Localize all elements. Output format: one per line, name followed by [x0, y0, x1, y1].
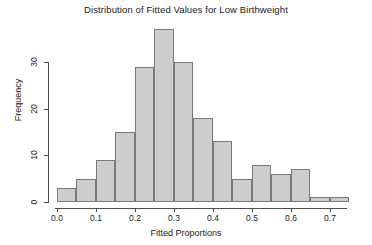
x-axis-line [55, 208, 347, 209]
y-axis-tick-label: 0 [29, 194, 39, 210]
y-axis-tick [44, 62, 48, 63]
histogram-bar [115, 132, 134, 202]
histogram-chart: Distribution of Fitted Values for Low Bi… [0, 0, 372, 245]
histogram-bar [232, 179, 251, 202]
histogram-bar [271, 174, 290, 202]
x-axis-tick [174, 208, 175, 212]
histogram-bar [330, 197, 349, 202]
x-axis-tick [213, 208, 214, 212]
x-axis-tick-label: 0.1 [90, 213, 102, 223]
histogram-bar [76, 179, 95, 202]
y-axis-tick-label: 20 [29, 101, 39, 117]
x-axis-tick [57, 208, 58, 212]
x-axis-tick-label: 0.0 [51, 213, 63, 223]
chart-title: Distribution of Fitted Values for Low Bi… [0, 4, 372, 15]
x-axis-tick-label: 0.6 [285, 213, 297, 223]
x-axis-tick [96, 208, 97, 212]
x-axis-tick-label: 0.2 [129, 213, 141, 223]
x-axis-tick-label: 0.7 [324, 213, 336, 223]
histogram-bar [310, 197, 329, 202]
plot-area [57, 20, 345, 202]
histogram-bar [57, 188, 76, 202]
x-axis-label: Fitted Proportions [0, 228, 372, 238]
histogram-bar [193, 118, 212, 202]
y-axis-tick-label: 10 [29, 147, 39, 163]
x-axis-tick [252, 208, 253, 212]
histogram-bar [96, 160, 115, 202]
x-axis-tick-label: 0.5 [246, 213, 258, 223]
histogram-bar [154, 29, 173, 202]
x-axis-tick [330, 208, 331, 212]
histogram-bar [252, 165, 271, 202]
bar-series [57, 20, 345, 202]
x-axis-tick-label: 0.4 [207, 213, 219, 223]
x-axis-tick [291, 208, 292, 212]
histogram-bar [291, 169, 310, 202]
y-axis-line [48, 62, 49, 203]
histogram-bar [174, 62, 193, 202]
y-axis-label: Frequency [13, 70, 23, 130]
histogram-bar [213, 141, 232, 202]
histogram-bar [135, 67, 154, 202]
y-axis-tick-label: 30 [29, 54, 39, 70]
y-axis-tick [44, 109, 48, 110]
x-axis-tick-label: 0.3 [168, 213, 180, 223]
y-axis-tick [44, 155, 48, 156]
x-axis-tick [135, 208, 136, 212]
y-axis-tick [44, 202, 48, 203]
